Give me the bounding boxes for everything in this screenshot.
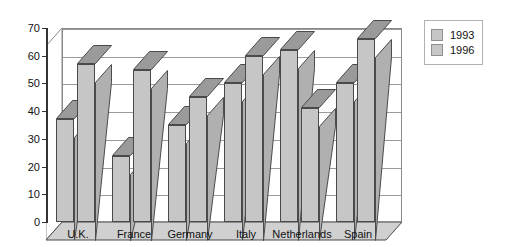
bar-top bbox=[245, 37, 281, 57]
grid-line bbox=[63, 57, 401, 58]
legend-swatch-1993 bbox=[431, 29, 443, 41]
x-axis-label-spain: Spain bbox=[344, 228, 372, 240]
bar-face bbox=[357, 39, 375, 222]
y-axis-tick-label: 20 bbox=[28, 161, 40, 173]
y-axis-tick bbox=[42, 28, 47, 29]
bar-face bbox=[336, 83, 354, 222]
y-axis-tick bbox=[42, 167, 47, 168]
bar-uk-1993 bbox=[56, 119, 74, 222]
bar-italy-1996 bbox=[245, 56, 263, 222]
legend-item-1996[interactable]: 1996 bbox=[431, 44, 474, 56]
y-axis-tick bbox=[42, 111, 47, 112]
bar-face bbox=[77, 64, 95, 222]
bar-france-1996 bbox=[133, 70, 151, 222]
bar-face bbox=[56, 119, 74, 222]
grid-line bbox=[63, 29, 401, 30]
bar-netherlands-1996 bbox=[301, 108, 319, 222]
bar-side bbox=[319, 108, 337, 222]
bar-netherlands-1993 bbox=[280, 50, 298, 222]
y-axis-tick bbox=[42, 83, 47, 84]
bar-france-1993 bbox=[112, 156, 130, 223]
legend-label-1993: 1993 bbox=[450, 29, 474, 41]
y-axis-tick bbox=[42, 222, 47, 223]
y-axis-tick bbox=[42, 56, 47, 57]
y-axis-tick-label: 40 bbox=[28, 105, 40, 117]
legend-swatch-1996 bbox=[431, 44, 443, 56]
bar-side bbox=[151, 70, 169, 222]
bar-germany-1993 bbox=[168, 125, 186, 222]
bar-face bbox=[280, 50, 298, 222]
y-axis-tick-label: 30 bbox=[28, 133, 40, 145]
bar-face bbox=[245, 56, 263, 222]
x-axis-label-italy: Italy bbox=[236, 228, 256, 240]
x-axis-label-uk: U.K. bbox=[67, 228, 88, 240]
y-axis-tick-label: 0 bbox=[34, 216, 40, 228]
x-axis-label-germany: Germany bbox=[167, 228, 212, 240]
bar-side bbox=[263, 56, 281, 222]
legend-item-1993[interactable]: 1993 bbox=[431, 29, 474, 41]
chart-legend: 1993 1996 bbox=[424, 20, 483, 65]
bar-face bbox=[189, 97, 207, 222]
plot-area: 010203040506070 bbox=[46, 28, 386, 222]
bar-face bbox=[224, 83, 242, 222]
bar-top bbox=[280, 31, 316, 51]
y-axis-tick bbox=[42, 139, 47, 140]
bar-side bbox=[207, 97, 225, 222]
bar-italy-1993 bbox=[224, 83, 242, 222]
bar-face bbox=[112, 156, 130, 223]
bar-uk-1996 bbox=[77, 64, 95, 222]
bar-side bbox=[95, 64, 113, 222]
bar-top bbox=[189, 78, 225, 98]
y-axis-tick-label: 60 bbox=[28, 50, 40, 62]
bar-spain-1993 bbox=[336, 83, 354, 222]
bar-side bbox=[375, 39, 393, 222]
y-axis-tick-label: 10 bbox=[28, 188, 40, 200]
bar-top bbox=[301, 89, 337, 109]
bar-top bbox=[133, 51, 169, 71]
bar-germany-1996 bbox=[189, 97, 207, 222]
bar-top bbox=[77, 45, 113, 65]
bar-face bbox=[301, 108, 319, 222]
x-axis-label-france: France bbox=[117, 228, 151, 240]
x-axis-label-netherlands: Netherlands bbox=[272, 228, 331, 240]
y-axis-tick bbox=[42, 194, 47, 195]
bar-top bbox=[357, 20, 393, 40]
bar-face bbox=[168, 125, 186, 222]
bar-face bbox=[133, 70, 151, 222]
bar-chart: 010203040506070 U.K.FranceGermanyItalyNe… bbox=[0, 0, 516, 247]
y-axis-tick-label: 50 bbox=[28, 77, 40, 89]
legend-label-1996: 1996 bbox=[450, 44, 474, 56]
y-axis-tick-label: 70 bbox=[28, 22, 40, 34]
bar-spain-1996 bbox=[357, 39, 375, 222]
